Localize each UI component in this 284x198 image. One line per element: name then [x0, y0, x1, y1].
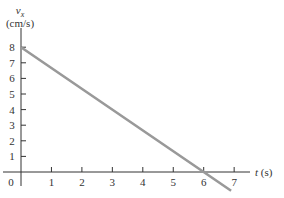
x-tick-label: 1: [49, 176, 55, 188]
y-axis-label-unit: (cm/s): [6, 17, 34, 30]
y-tick-label: 4: [9, 104, 15, 116]
x-tick-label: 6: [201, 176, 207, 188]
x-tick-label: 4: [140, 176, 146, 188]
y-tick-label: 7: [9, 57, 15, 69]
x-tick-label: 7: [231, 176, 237, 188]
x-axis-label: t (s): [255, 166, 273, 179]
x-tick-label: 3: [110, 176, 116, 188]
x-tick-label: 5: [171, 176, 177, 188]
x-tick-label: 2: [79, 176, 85, 188]
velocity-time-chart: 1234567812345670t (s)vx(cm/s): [0, 0, 284, 198]
y-tick-label: 5: [9, 88, 15, 100]
y-tick-label: 2: [9, 135, 15, 147]
velocity-line: [21, 47, 231, 191]
y-tick-label: 8: [9, 41, 15, 53]
y-tick-label: 3: [9, 119, 15, 131]
origin-label: 0: [8, 176, 14, 188]
y-tick-label: 1: [9, 150, 15, 162]
y-tick-label: 6: [9, 72, 15, 84]
